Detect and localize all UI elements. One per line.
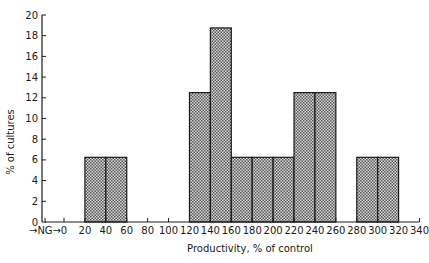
histogram-bar xyxy=(315,93,336,222)
x-tick-label: 240 xyxy=(305,225,324,236)
histogram-bar xyxy=(273,157,294,222)
histogram-chart: 0246810121416182002040608010012014016018… xyxy=(0,0,429,263)
histogram-bar xyxy=(231,157,252,222)
x-tick-label: 280 xyxy=(347,225,366,236)
x-tick-label: 340 xyxy=(410,225,429,236)
histogram-bar xyxy=(189,93,210,222)
y-axis-title: % of cultures xyxy=(5,109,16,175)
x-tick-label: 80 xyxy=(141,225,154,236)
x-tick-label: 180 xyxy=(243,225,262,236)
x-tick-label: 320 xyxy=(389,225,408,236)
histogram-bar xyxy=(85,157,106,222)
y-tick-label: 18 xyxy=(25,30,38,41)
x-tick-label: 140 xyxy=(201,225,220,236)
x-tick-label: 200 xyxy=(264,225,283,236)
histogram-bar xyxy=(357,157,378,222)
y-tick-label: 4 xyxy=(32,175,38,186)
x-axis-title: Productivity, % of control xyxy=(187,243,313,254)
y-tick-label: 8 xyxy=(32,134,38,145)
histogram-bar xyxy=(252,157,273,222)
y-tick-label: 12 xyxy=(25,92,38,103)
x-tick-label: 260 xyxy=(326,225,345,236)
x-tick-label: 160 xyxy=(222,225,241,236)
histogram-bar xyxy=(294,93,315,222)
x-tick-label: 220 xyxy=(284,225,303,236)
y-tick-label: 6 xyxy=(32,154,38,165)
x-tick-label-ng: →NG→ xyxy=(29,225,61,236)
histogram-bars xyxy=(85,28,399,222)
x-tick-label: 20 xyxy=(79,225,92,236)
y-tick-label: 20 xyxy=(25,10,38,21)
x-tick-label: 0 xyxy=(61,225,67,236)
x-tick-label: 60 xyxy=(120,225,133,236)
x-tick-label: 40 xyxy=(99,225,112,236)
y-tick-label: 2 xyxy=(32,196,38,207)
y-tick-label: 16 xyxy=(25,51,38,62)
histogram-bar xyxy=(210,28,231,222)
y-tick-label: 10 xyxy=(25,113,38,124)
x-tick-label: 300 xyxy=(368,225,387,236)
x-tick-label: 120 xyxy=(180,225,199,236)
histogram-bar xyxy=(378,157,399,222)
histogram-bar xyxy=(106,157,127,222)
x-tick-label: 100 xyxy=(159,225,178,236)
y-tick-label: 14 xyxy=(25,72,38,83)
